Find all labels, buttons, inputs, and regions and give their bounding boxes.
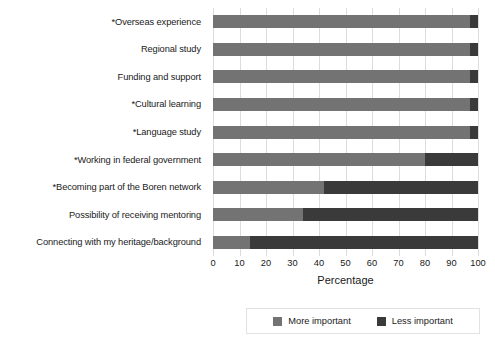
x-tick-label: 20 <box>261 258 271 268</box>
bar-segment <box>213 236 250 249</box>
legend-swatch-less-important <box>377 317 386 326</box>
category-label: *Language study <box>0 127 201 137</box>
category-label: Funding and support <box>0 72 201 82</box>
x-tick-label: 80 <box>420 258 430 268</box>
category-label: *Cultural learning <box>0 99 201 109</box>
bar-row <box>213 15 478 28</box>
bar-row <box>213 70 478 83</box>
gridline-100 <box>478 8 479 256</box>
bar-row <box>213 126 478 139</box>
legend-label-less-important: Less important <box>392 316 453 326</box>
bar-segment <box>213 70 470 83</box>
bar-segment <box>213 153 425 166</box>
category-label: *Becoming part of the Boren network <box>0 182 201 192</box>
x-tick-label: 0 <box>210 258 215 268</box>
category-axis-labels: *Overseas experienceRegional studyFundin… <box>0 8 207 256</box>
bar-segment <box>213 43 470 56</box>
bar-segment <box>324 181 478 194</box>
bar-segment <box>213 98 470 111</box>
stacked-bar-chart: *Overseas experienceRegional studyFundin… <box>0 0 495 344</box>
category-label: *Working in federal government <box>0 155 201 165</box>
plot-area <box>213 8 478 256</box>
bar-row <box>213 43 478 56</box>
category-label: *Overseas experience <box>0 17 201 27</box>
x-tick-label: 50 <box>340 258 350 268</box>
bar-row <box>213 98 478 111</box>
x-tick-label: 90 <box>446 258 456 268</box>
legend-swatch-more-important <box>273 317 282 326</box>
x-tick-label: 40 <box>314 258 324 268</box>
legend-item-more-important[interactable]: More important <box>273 316 351 326</box>
bar-segment <box>470 43 478 56</box>
bar-segment <box>470 126 478 139</box>
category-label: Regional study <box>0 44 201 54</box>
bar-segment <box>213 126 470 139</box>
x-tick-label: 100 <box>470 258 486 268</box>
bar-segment <box>213 15 470 28</box>
bar-segment <box>213 181 324 194</box>
x-axis-title: Percentage <box>213 274 478 286</box>
bar-segment <box>425 153 478 166</box>
x-tick-label: 10 <box>234 258 244 268</box>
x-tick-label: 30 <box>287 258 297 268</box>
x-tick-label: 60 <box>367 258 377 268</box>
bar-segment <box>470 70 478 83</box>
bar-segment <box>470 98 478 111</box>
bar-row <box>213 208 478 221</box>
bar-segment <box>470 15 478 28</box>
legend: More important Less important <box>246 308 480 334</box>
bar-row <box>213 236 478 249</box>
legend-item-less-important[interactable]: Less important <box>377 316 453 326</box>
legend-label-more-important: More important <box>288 316 351 326</box>
bar-segment <box>213 208 303 221</box>
x-axis-tick-labels: 0102030405060708090100 <box>213 258 478 272</box>
bar-segment <box>250 236 478 249</box>
x-tick-label: 70 <box>393 258 403 268</box>
bar-row <box>213 181 478 194</box>
bar-segment <box>303 208 478 221</box>
category-label: Connecting with my heritage/background <box>0 237 201 247</box>
bar-row <box>213 153 478 166</box>
category-label: Possibility of receiving mentoring <box>0 210 201 220</box>
